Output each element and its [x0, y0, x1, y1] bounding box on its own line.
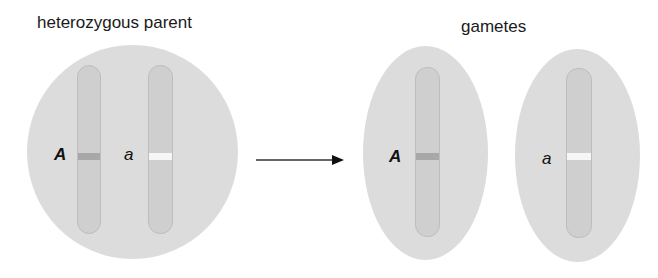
gamete-allele-label-dominant: A — [389, 147, 401, 167]
gamete-chromosome-dominant — [415, 67, 440, 237]
parent-chromosome-recessive — [148, 65, 173, 234]
arrow-right-icon — [254, 152, 346, 168]
dominant-allele-band — [416, 153, 439, 160]
parent-allele-label-recessive: a — [124, 145, 133, 165]
parent-allele-label-dominant: A — [54, 145, 66, 165]
gametes-title: gametes — [461, 17, 526, 37]
recessive-allele-band — [567, 153, 591, 160]
gamete-chromosome-recessive — [566, 68, 592, 238]
gamete-allele-label-recessive: a — [542, 149, 551, 169]
parent-title: heterozygous parent — [37, 13, 192, 33]
recessive-allele-band — [149, 153, 172, 160]
parent-chromosome-dominant — [77, 65, 101, 234]
dominant-allele-band — [78, 153, 100, 160]
